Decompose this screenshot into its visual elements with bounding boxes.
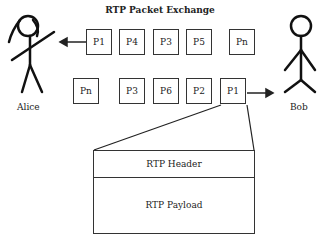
diagram-title: RTP Packet Exchange bbox=[0, 5, 320, 15]
packet-row2-3: P6 bbox=[153, 78, 179, 104]
packet-row2-1: Pn bbox=[73, 78, 99, 104]
packet-detail-box: RTP Header RTP Payload bbox=[93, 150, 255, 234]
packet-row2-4: P2 bbox=[186, 78, 212, 104]
rtp-payload-section: RTP Payload bbox=[94, 178, 254, 232]
alice-figure bbox=[9, 16, 54, 92]
bob-label: Bob bbox=[290, 102, 308, 112]
alice-label: Alice bbox=[17, 102, 40, 112]
packet-row1-4: P5 bbox=[186, 29, 212, 55]
packet-row2-5: P1 bbox=[220, 78, 246, 104]
rtp-header-section: RTP Header bbox=[94, 151, 254, 178]
packet-row1-3: P3 bbox=[153, 29, 179, 55]
arrow-to-bob bbox=[247, 89, 273, 97]
packet-row2-2: P3 bbox=[119, 78, 145, 104]
packet-row1-1: P1 bbox=[86, 29, 112, 55]
bob-figure bbox=[285, 16, 315, 92]
packet-row1-5: Pn bbox=[229, 29, 255, 55]
packet-row1-2: P4 bbox=[119, 29, 145, 55]
arrow-to-alice bbox=[60, 38, 86, 46]
